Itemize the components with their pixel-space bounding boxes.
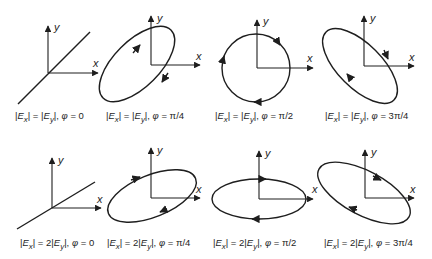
panel-r2c3: y x	[212, 147, 318, 219]
rotation-arrow-icon	[384, 50, 388, 59]
rotation-arrow-icon	[162, 73, 168, 82]
caption-r2c2: |Ex| = 2|Ey|, φ = π/4	[107, 237, 190, 251]
rotation-arrow-icon	[133, 45, 140, 53]
y-axis-label: y	[156, 12, 164, 24]
y-axis-label: y	[370, 146, 378, 158]
panel-r2c4: y x	[309, 146, 420, 236]
caption-r1c4: |Ex| = |Ey|, φ = 3π/4	[325, 110, 408, 124]
rotation-arrow-icon	[160, 209, 167, 212]
panel-r1c4: y x	[311, 12, 415, 115]
x-axis-label: x	[306, 52, 313, 64]
y-axis-label: y	[264, 147, 272, 159]
panel-r2c2: y x	[101, 144, 204, 233]
caption-r1c3: |Ex| = |Ey|, φ = π/2	[215, 110, 293, 124]
y-axis-label: y	[369, 12, 377, 24]
y-axis-label: y	[53, 21, 61, 33]
x-axis-label: x	[408, 51, 415, 63]
y-axis-label: y	[57, 154, 65, 166]
polarization-ellipse	[87, 14, 187, 114]
panel-r1c1: y x	[18, 21, 99, 104]
rotation-arrow-icon	[276, 39, 280, 45]
x-axis-label: x	[96, 193, 103, 205]
panel-r2c1: y x	[17, 154, 103, 229]
y-axis-label: y	[262, 15, 270, 27]
rotation-arrow-icon	[347, 74, 352, 80]
linear-polarization-line	[17, 182, 95, 229]
caption-r1c1: |Ex| = |Ey|, φ = 0	[15, 110, 84, 124]
panel-r1c3: y x	[222, 15, 313, 102]
caption-r2c4: |Ex| = 2|Ey|, φ = 3π/4	[324, 237, 413, 251]
x-axis-label: x	[92, 57, 99, 69]
caption-r1c2: |Ex| = |Ey|, φ = π/4	[106, 110, 184, 124]
x-axis-label: x	[409, 183, 416, 195]
polarization-ellipse	[309, 150, 420, 237]
polarization-ellipse	[101, 159, 204, 233]
x-axis-label: x	[195, 50, 202, 62]
rotation-arrow-icon	[222, 56, 224, 63]
caption-r2c3: |Ex| = 2|Ey|, φ = π/2	[213, 237, 296, 251]
polarization-diagram: y x y x y x y x y x	[0, 0, 432, 259]
panel-r1c2: y x	[87, 12, 202, 114]
y-axis-label: y	[156, 144, 164, 156]
x-axis-label: x	[311, 183, 318, 195]
rotation-arrow-icon	[349, 207, 357, 210]
linear-polarization-line	[18, 32, 90, 104]
caption-r2c1: |Ex| = 2|Ey|, φ = 0	[20, 237, 94, 251]
